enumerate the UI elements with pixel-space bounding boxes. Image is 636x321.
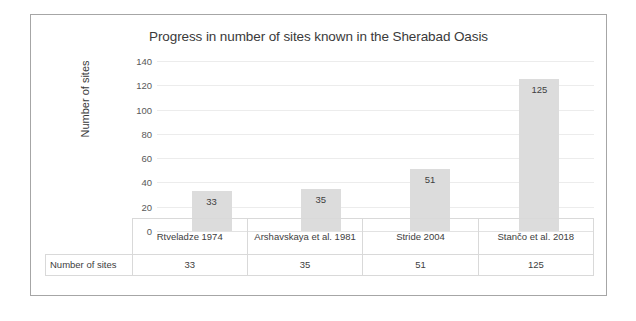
bar-value-label: 35 — [301, 194, 341, 205]
category-label-cell: Stančo et al. 2018 — [478, 219, 593, 255]
y-tick-label: 60 — [141, 153, 152, 164]
bar-slot: 51 — [376, 61, 485, 231]
y-axis-title: Number of sites — [79, 39, 91, 159]
bar-series: 33 35 51 125 — [157, 61, 594, 231]
table-row-header: Number of sites — [46, 255, 133, 276]
table-cell-value: 51 — [363, 255, 478, 276]
y-tick-label: 20 — [141, 201, 152, 212]
bar-slot: 33 — [157, 61, 266, 231]
chart-frame: Progress in number of sites known in the… — [30, 14, 607, 296]
table-cell-value: 33 — [132, 255, 247, 276]
plot-area: 140 120 100 80 60 40 20 0 33 — [127, 61, 594, 231]
bar-slot: 35 — [266, 61, 375, 231]
chart-data-table: Rtveladze 1974 Arshavskaya et al. 1981 S… — [45, 218, 594, 276]
bar-value-label: 33 — [192, 196, 232, 207]
table-cell-value: 35 — [247, 255, 362, 276]
category-label-cell: Arshavskaya et al. 1981 — [247, 219, 362, 255]
category-label-cell: Rtveladze 1974 — [132, 219, 247, 255]
chart-title: Progress in number of sites known in the… — [31, 29, 606, 44]
y-tick-label: 100 — [136, 104, 152, 115]
table-row-categories: Rtveladze 1974 Arshavskaya et al. 1981 S… — [46, 219, 594, 255]
y-tick-label: 140 — [136, 56, 152, 67]
y-tick-label: 80 — [141, 128, 152, 139]
bar-slot: 125 — [485, 61, 594, 231]
category-label-cell: Stride 2004 — [363, 219, 478, 255]
table-row: Number of sites 33 35 51 125 — [46, 255, 594, 276]
bar[interactable]: 125 — [519, 79, 559, 231]
y-tick-label: 40 — [141, 177, 152, 188]
bar-value-label: 51 — [410, 174, 450, 185]
y-axis-tick-labels: 140 120 100 80 60 40 20 0 — [127, 61, 156, 231]
table-cell-value: 125 — [478, 255, 593, 276]
category-row-spacer — [46, 219, 133, 255]
y-tick-label: 120 — [136, 80, 152, 91]
bar-value-label: 125 — [519, 84, 559, 95]
